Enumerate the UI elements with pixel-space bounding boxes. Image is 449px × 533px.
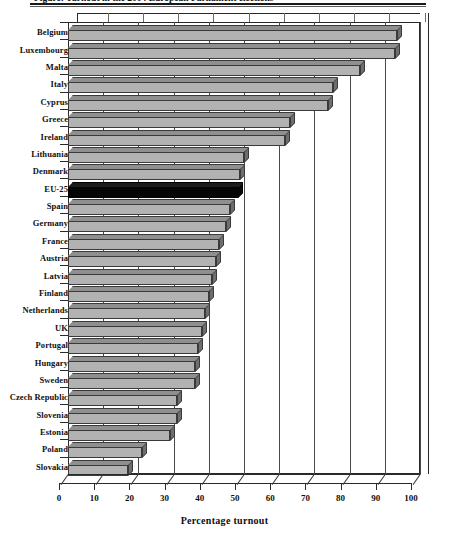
category-tick bbox=[60, 265, 68, 266]
bar-front-face bbox=[68, 274, 212, 285]
category-axis: BelgiumLuxembourgMaltaItalyCyprusGreeceI… bbox=[0, 22, 68, 474]
bar-estonia bbox=[68, 425, 176, 438]
category-tick bbox=[60, 283, 68, 284]
gridline-back-80 bbox=[354, 13, 355, 22]
category-tick bbox=[60, 22, 68, 23]
bar-front-face bbox=[68, 48, 395, 59]
x-tick-100 bbox=[411, 483, 412, 490]
gridline-back-30 bbox=[178, 13, 179, 22]
plot-area bbox=[68, 22, 420, 474]
caption-rule-thick bbox=[30, 3, 426, 5]
x-tick-depth-100 bbox=[413, 474, 421, 485]
bar-chart: BelgiumLuxembourgMaltaItalyCyprusGreeceI… bbox=[0, 12, 449, 512]
bar-finland bbox=[68, 286, 215, 299]
x-tick-20 bbox=[129, 483, 130, 490]
bar-front-face bbox=[68, 187, 238, 198]
category-tick bbox=[60, 161, 68, 162]
bar-portugal bbox=[68, 338, 204, 351]
category-label-uk: UK bbox=[4, 323, 68, 333]
category-tick bbox=[60, 213, 68, 214]
plot-depth-right bbox=[420, 13, 429, 474]
category-tick bbox=[60, 178, 68, 179]
category-label-austria: Austria bbox=[4, 253, 68, 263]
bar-spain bbox=[68, 199, 236, 212]
bar-front-face bbox=[68, 378, 195, 389]
category-label-malta: Malta bbox=[4, 62, 68, 72]
category-tick bbox=[60, 318, 68, 319]
x-tick-10 bbox=[94, 483, 95, 490]
category-label-luxembourg: Luxembourg bbox=[4, 45, 68, 55]
category-tick bbox=[60, 74, 68, 75]
bar-front-face bbox=[68, 447, 142, 458]
gridline-back-70 bbox=[319, 13, 320, 22]
bar-front-face bbox=[68, 100, 328, 111]
category-label-ireland: Ireland bbox=[4, 132, 68, 142]
x-tick-90 bbox=[376, 483, 377, 490]
bar-front-face bbox=[68, 395, 177, 406]
bar-front-face bbox=[68, 291, 209, 302]
x-tick-label-30: 30 bbox=[150, 493, 180, 503]
bar-slovenia bbox=[68, 408, 183, 421]
bar-austria bbox=[68, 251, 222, 264]
caption-rule-thin bbox=[30, 6, 426, 7]
category-label-greece: Greece bbox=[4, 114, 68, 124]
category-label-estonia: Estonia bbox=[4, 427, 68, 437]
category-label-france: France bbox=[4, 236, 68, 246]
x-tick-label-60: 60 bbox=[255, 493, 285, 503]
category-label-eu-25: EU-25 bbox=[4, 184, 68, 194]
category-tick bbox=[60, 335, 68, 336]
bar-front-face bbox=[68, 326, 202, 337]
x-tick-label-20: 20 bbox=[114, 493, 144, 503]
x-tick-label-80: 80 bbox=[326, 493, 356, 503]
bar-front-face bbox=[68, 135, 285, 146]
bar-czech-republic bbox=[68, 390, 183, 403]
x-tick-label-50: 50 bbox=[220, 493, 250, 503]
bar-sweden bbox=[68, 373, 201, 386]
bar-latvia bbox=[68, 269, 218, 282]
bar-front-face bbox=[68, 239, 219, 250]
x-axis-title: Percentage turnout bbox=[0, 515, 449, 526]
category-label-netherlands: Netherlands bbox=[4, 305, 68, 315]
x-tick-70 bbox=[305, 483, 306, 490]
gridline-back-60 bbox=[284, 13, 285, 22]
gridline-back-100 bbox=[425, 13, 426, 22]
category-label-belgium: Belgium bbox=[4, 27, 68, 37]
x-tick-40 bbox=[200, 483, 201, 490]
category-tick bbox=[60, 39, 68, 40]
bar-germany bbox=[68, 216, 232, 229]
x-tick-0 bbox=[59, 483, 60, 490]
bar-front-face bbox=[68, 413, 177, 424]
category-label-latvia: Latvia bbox=[4, 271, 68, 281]
bar-uk bbox=[68, 321, 208, 334]
category-tick bbox=[60, 109, 68, 110]
bar-front-face bbox=[68, 361, 195, 372]
bar-poland bbox=[68, 442, 148, 455]
bar-front-face bbox=[68, 256, 216, 267]
x-tick-30 bbox=[165, 483, 166, 490]
bar-front-face bbox=[68, 308, 205, 319]
category-label-germany: Germany bbox=[4, 218, 68, 228]
category-tick bbox=[60, 144, 68, 145]
bar-front-face bbox=[68, 221, 226, 232]
bar-front-face bbox=[68, 204, 230, 215]
category-tick bbox=[60, 57, 68, 58]
category-tick bbox=[60, 439, 68, 440]
category-label-lithuania: Lithuania bbox=[4, 149, 68, 159]
category-tick bbox=[60, 196, 68, 197]
category-label-poland: Poland bbox=[4, 444, 68, 454]
bar-front-face bbox=[68, 152, 244, 163]
x-tick-label-10: 10 bbox=[79, 493, 109, 503]
category-tick bbox=[60, 231, 68, 232]
bar-italy bbox=[68, 77, 339, 90]
bar-ireland bbox=[68, 130, 291, 143]
category-tick bbox=[60, 422, 68, 423]
bar-eu-25 bbox=[68, 182, 244, 195]
category-tick bbox=[60, 126, 68, 127]
category-label-spain: Spain bbox=[4, 201, 68, 211]
figure-title: Figure: Turnout in the 2004 European Par… bbox=[34, 0, 424, 3]
category-label-slovenia: Slovenia bbox=[4, 410, 68, 420]
bar-lithuania bbox=[68, 147, 250, 160]
category-tick bbox=[60, 387, 68, 388]
gridline-back-90 bbox=[389, 13, 390, 22]
category-label-cyprus: Cyprus bbox=[4, 97, 68, 107]
